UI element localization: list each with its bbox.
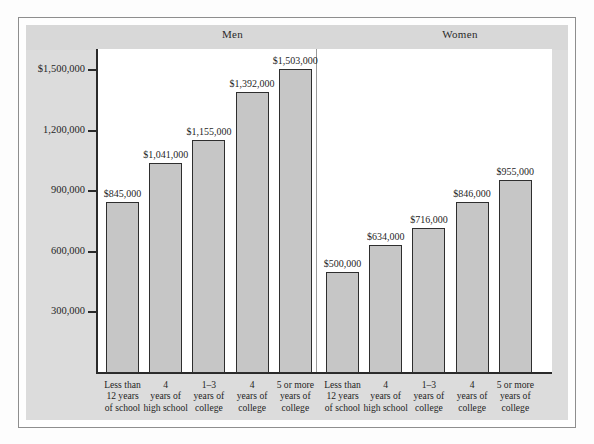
bar-men-0 — [106, 202, 139, 373]
category-label-line: college — [482, 402, 548, 413]
y-tick-mark — [88, 130, 97, 132]
y-tick-label-text: $1,500,000 — [38, 63, 85, 74]
category-label-line: years of — [482, 390, 548, 401]
bar-women-2 — [412, 228, 445, 373]
y-tick-mark — [88, 311, 97, 313]
y-tick-label-text: 900,000 — [51, 184, 85, 195]
bar-men-1 — [149, 163, 182, 373]
bar-men-3 — [236, 92, 269, 373]
panel-header-band: Men Women — [26, 25, 568, 50]
bar-women-4 — [499, 180, 532, 373]
bar-women-0 — [326, 272, 359, 373]
bar-women-3 — [456, 202, 489, 373]
y-tick-label-text: 1,200,000 — [43, 124, 85, 135]
bar-value-label: $955,000 — [475, 166, 555, 177]
panel-title-men: Men — [123, 28, 342, 40]
y-tick-mark — [88, 69, 97, 71]
panel-title-women: Women — [342, 28, 578, 40]
bar-men-2 — [192, 140, 225, 373]
chart-figure: Men Women $1,500,0001,200,000900,000600,… — [0, 0, 594, 444]
panel-divider — [316, 49, 317, 373]
y-tick-label-text: 300,000 — [51, 305, 85, 316]
y-tick-mark — [88, 251, 97, 253]
bar-women-1 — [369, 245, 402, 373]
y-tick-label-text: 600,000 — [51, 245, 85, 256]
category-label-line: 5 or more — [482, 379, 548, 390]
y-axis-line — [96, 49, 98, 374]
bar-value-label: $1,503,000 — [255, 55, 335, 66]
bar-men-4 — [279, 69, 312, 373]
category-label-women-4: 5 or moreyears ofcollege — [482, 379, 548, 413]
